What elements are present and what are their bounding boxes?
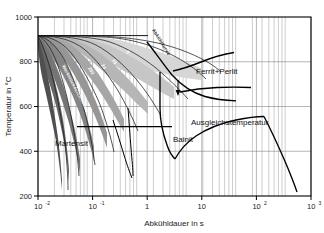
y-axis-title: Temperatur in °C bbox=[4, 76, 13, 136]
chart-canvas: 200 400 600 800 1000 Temperatur in °C 10… bbox=[0, 0, 324, 233]
annotation-martensit: Martensit bbox=[55, 139, 89, 148]
svg-text:-2: -2 bbox=[46, 200, 51, 206]
annotation-ausgleichstemperatur: Ausgleichstemperatur bbox=[191, 118, 269, 127]
x-tick-1: 1 bbox=[145, 202, 149, 211]
x-tick-1e2: 10 2 bbox=[252, 200, 267, 211]
x-tick-1e-2: 10 -2 bbox=[34, 200, 50, 211]
x-tick-1e3: 10 3 bbox=[307, 200, 322, 211]
x-tick-1e-1: 10 -1 bbox=[89, 200, 105, 211]
svg-text:10: 10 bbox=[89, 202, 97, 211]
svg-text:10: 10 bbox=[252, 202, 260, 211]
y-tick-1000: 1000 bbox=[15, 13, 32, 22]
svg-text:-1: -1 bbox=[100, 200, 105, 206]
svg-text:10: 10 bbox=[34, 202, 42, 211]
svg-text:2: 2 bbox=[264, 200, 267, 206]
y-tick-200: 200 bbox=[19, 192, 32, 201]
svg-text:3: 3 bbox=[319, 200, 322, 206]
x-axis: 10 -2 10 -1 1 10 10 2 10 3 bbox=[34, 196, 322, 228]
svg-text:1: 1 bbox=[145, 202, 149, 211]
annotation-bainit: Bainit bbox=[173, 135, 194, 144]
x-tick-10: 10 bbox=[198, 202, 206, 211]
annotation-ferrit-perlit: Ferrit+Perlit bbox=[196, 67, 238, 76]
y-axis: 200 400 600 800 1000 Temperatur in °C bbox=[4, 13, 38, 201]
svg-text:10: 10 bbox=[307, 202, 315, 211]
y-tick-400: 400 bbox=[19, 147, 32, 156]
x-axis-title: Abkühldauer in s bbox=[144, 219, 204, 228]
svg-text:10: 10 bbox=[198, 202, 206, 211]
y-tick-800: 800 bbox=[19, 57, 32, 66]
y-tick-600: 600 bbox=[19, 102, 32, 111]
cct-diagram-figure: 200 400 600 800 1000 Temperatur in °C 10… bbox=[0, 0, 324, 233]
